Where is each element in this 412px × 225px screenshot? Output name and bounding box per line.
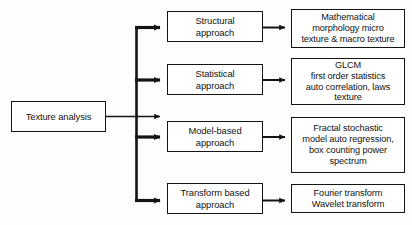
node-label: Structural approach <box>195 15 234 37</box>
node-label: Transform based approach <box>180 187 249 209</box>
node-texture-analysis[interactable]: Texture analysis <box>11 101 106 132</box>
node-model-based-approach[interactable]: Model-based approach <box>167 121 263 152</box>
node-model-based-details[interactable]: Fractal stochastic model auto regression… <box>291 117 405 173</box>
node-label: Fractal stochastic model auto regression… <box>288 123 408 166</box>
node-label: Statistical approach <box>195 68 234 90</box>
node-label: Mathematical morphology micro texture & … <box>288 12 408 45</box>
node-statistical-details[interactable]: GLCM first order statistics auto correla… <box>291 58 405 105</box>
node-label: Texture analysis <box>26 111 92 122</box>
node-transform-based-approach[interactable]: Transform based approach <box>167 183 263 214</box>
node-label: GLCM first order statistics auto correla… <box>288 60 408 103</box>
texture-analysis-flowchart: Texture analysis Structural approach Sta… <box>0 0 412 225</box>
node-structural-details[interactable]: Mathematical morphology micro texture & … <box>291 9 405 48</box>
node-label: Fourier transform Wavelet transform <box>288 188 408 210</box>
node-transform-based-details[interactable]: Fourier transform Wavelet transform <box>291 184 405 213</box>
node-statistical-approach[interactable]: Statistical approach <box>167 64 263 95</box>
node-structural-approach[interactable]: Structural approach <box>167 11 263 42</box>
node-label: Model-based approach <box>188 125 241 147</box>
